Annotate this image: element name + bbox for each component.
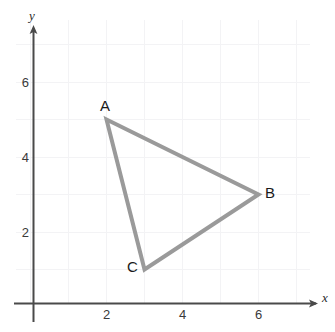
y-tick-label-2: 2 (12, 226, 29, 239)
y-axis-label: y (29, 9, 35, 22)
x-axis-label: x (322, 291, 328, 304)
y-tick-label-6: 6 (12, 76, 29, 89)
vertex-label-a: A (100, 98, 110, 113)
x-axis (14, 300, 318, 308)
coordinate-plane-figure: 2 4 6 2 4 6 x y A B C (0, 0, 335, 332)
triangle-plot-svg (0, 0, 335, 332)
grid-lines (16, 20, 310, 303)
x-tick-label-6: 6 (248, 308, 269, 321)
x-tick-label-2: 2 (96, 308, 117, 321)
vertex-label-b: B (265, 185, 275, 200)
x-tick-label-4: 4 (172, 308, 193, 321)
y-tick-label-4: 4 (12, 151, 29, 164)
vertex-label-c: C (127, 259, 138, 274)
